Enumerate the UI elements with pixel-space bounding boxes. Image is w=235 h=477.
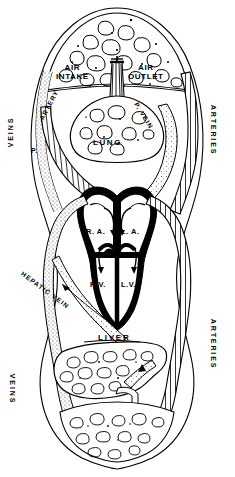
circulatory-system-diagram: AIR INTAKE AIR OUTLET LUNG LIVER R. A. L…: [0, 0, 235, 477]
air-intake-line-2: INTAKE: [56, 72, 89, 81]
air-intake-label: AIR INTAKE: [56, 63, 89, 81]
veins-lower-label: VEINS: [8, 374, 16, 405]
lower-body-tissue-region: [60, 402, 174, 462]
lung-label: LUNG: [93, 138, 122, 147]
air-outlet-line-1: AIR: [138, 63, 154, 72]
liver-label: LIVER: [98, 333, 131, 342]
trachea-region: [110, 56, 124, 101]
arteries-lower-label: ARTERIES: [209, 319, 217, 370]
air-outlet-label: AIR OUTLET: [128, 63, 164, 81]
left-ventricle-label: L.V.: [121, 281, 136, 290]
diagram-canvas: [0, 0, 235, 477]
air-intake-line-1: AIR: [65, 63, 81, 72]
right-atrium-label: R. A.: [86, 228, 105, 237]
arteries-upper-label: ARTERIES: [209, 105, 217, 156]
air-outlet-line-2: OUTLET: [128, 72, 164, 81]
right-ventricle-label: R.V.: [90, 281, 106, 290]
pulmonary-prefix-label: P.: [31, 147, 38, 155]
veins-upper-label: VEINS: [7, 117, 15, 148]
left-atrium-label: L. A.: [121, 228, 139, 237]
